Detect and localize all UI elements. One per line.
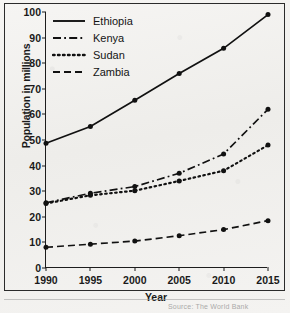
legend-swatch-kenya-icon [52,33,86,43]
y-tick-label-40: 40 [29,160,41,172]
data-point-zambia-2015 [266,218,271,223]
legend-label: Sudan [93,49,125,61]
y-tick-mark-40 [42,165,46,166]
legend-item-kenya: Kenya [52,31,133,44]
legend-label: Ethiopia [93,15,133,27]
data-point-ethiopia-2005 [177,71,182,76]
y-tick-label-30: 30 [29,185,41,197]
y-tick-mark-10 [42,242,46,243]
data-point-sudan-1995 [88,193,93,198]
y-tick-label-90: 90 [29,32,41,44]
legend-label: Kenya [93,32,124,44]
legend-swatch-sudan-icon [52,50,86,60]
data-point-kenya-2010 [221,152,226,157]
data-point-ethiopia-1990 [44,141,49,146]
y-tick-mark-90 [42,37,46,38]
data-point-sudan-1990 [44,201,49,206]
data-point-sudan-2010 [221,168,226,173]
data-point-sudan-2015 [266,143,271,148]
y-tick-mark-100 [42,12,46,13]
x-tick-label-1995: 1995 [79,274,102,286]
x-axis-title: Year [45,291,267,303]
y-tick-label-70: 70 [29,83,41,95]
legend-swatch-zambia-icon [52,67,86,77]
y-tick-mark-80 [42,63,46,64]
legend-item-zambia: Zambia [52,65,133,78]
y-tick-mark-50 [42,140,46,141]
y-tick-label-0: 0 [35,262,41,274]
x-tick-mark-2015 [268,267,269,271]
x-tick-mark-2000 [134,267,135,271]
y-tick-label-80: 80 [29,57,41,69]
y-tick-label-20: 20 [29,211,41,223]
footer-divider [4,299,285,300]
data-point-sudan-2005 [177,178,182,183]
y-tick-label-60: 60 [29,108,41,120]
series-line-kenya [46,109,268,202]
y-tick-label-50: 50 [29,134,41,146]
legend-item-sudan: Sudan [52,48,133,61]
data-point-sudan-2000 [132,188,137,193]
y-tick-mark-30 [42,191,46,192]
chart-page: Population in millions 01020304050607080… [0,0,290,313]
legend-item-ethiopia: Ethiopia [52,14,133,27]
chart-legend: EthiopiaKenyaSudanZambia [52,14,133,78]
data-point-zambia-2000 [132,239,137,244]
x-tick-label-2015: 2015 [256,274,279,286]
data-point-ethiopia-2000 [132,98,137,103]
data-point-zambia-1990 [44,245,49,250]
data-point-kenya-2005 [177,171,182,176]
series-line-zambia [46,221,268,248]
y-tick-mark-60 [42,114,46,115]
data-point-zambia-1995 [88,242,93,247]
y-tick-mark-20 [42,216,46,217]
y-tick-label-100: 100 [23,6,41,18]
x-tick-label-2010: 2010 [212,274,235,286]
x-tick-mark-1990 [46,267,47,271]
y-tick-label-10: 10 [29,236,41,248]
legend-label: Zambia [93,66,130,78]
source-note: Source: The World Bank [168,303,248,310]
data-point-zambia-2005 [177,233,182,238]
x-tick-mark-2010 [223,267,224,271]
data-point-kenya-2015 [266,107,271,112]
x-tick-mark-1995 [90,267,91,271]
data-point-ethiopia-1995 [88,124,93,129]
y-tick-mark-70 [42,88,46,89]
legend-swatch-ethiopia-icon [52,16,86,26]
x-tick-label-2005: 2005 [168,274,191,286]
data-point-ethiopia-2015 [266,12,271,17]
data-point-zambia-2010 [221,227,226,232]
x-tick-label-1990: 1990 [34,274,57,286]
data-point-ethiopia-2010 [221,46,226,51]
series-line-sudan [46,145,268,203]
x-tick-mark-2005 [179,267,180,271]
x-tick-label-2000: 2000 [123,274,146,286]
